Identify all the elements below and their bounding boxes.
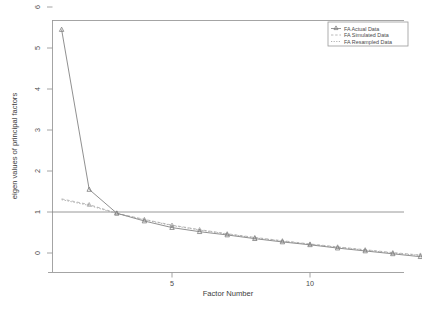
y-tick-label: 2 (33, 169, 42, 173)
scree-plot-canvas: 0123456 510 Factor Number eigen values o… (0, 0, 422, 315)
legend-label-fa-resampled-data: FA Resampled Data (344, 39, 392, 45)
x-tick-label: 10 (306, 279, 314, 288)
series-line-fa-resampled-data (62, 200, 421, 256)
series-markers-fa-simulated-data (87, 203, 422, 257)
scree-plot-figure: 0123456 510 Factor Number eigen values o… (0, 0, 422, 315)
y-axis-ticks: 0123456 (33, 5, 53, 255)
x-tick-label: 5 (170, 279, 174, 288)
legend: FA Actual Data FA Simulated Data FA Resa… (328, 22, 408, 46)
y-tick-label: 5 (33, 46, 42, 50)
y-tick-label: 0 (33, 251, 42, 255)
y-tick-label: 1 (33, 210, 42, 214)
series-line-fa-actual-data (62, 30, 421, 257)
legend-label-fa-actual-data: FA Actual Data (344, 26, 379, 32)
legend-label-fa-simulated-data: FA Simulated Data (344, 32, 389, 38)
y-tick-label: 6 (33, 5, 42, 9)
series-group (59, 27, 422, 258)
x-axis-ticks: 510 (170, 273, 314, 289)
series-line-fa-simulated-data (62, 199, 421, 255)
x-axis-title: Factor Number (203, 289, 254, 298)
y-tick-label: 4 (33, 87, 42, 91)
y-tick-label: 3 (33, 128, 42, 132)
series-markers-fa-actual-data (59, 27, 422, 258)
y-axis-title: eigen values of principal factors (10, 93, 19, 200)
